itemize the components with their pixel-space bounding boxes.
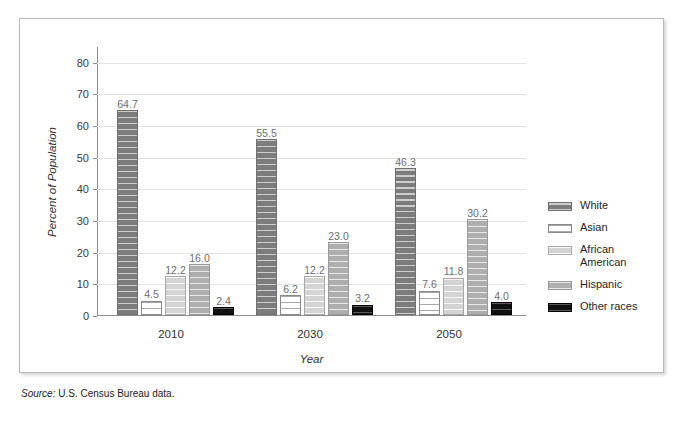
y-tick-label: 60 xyxy=(77,121,89,132)
bar[interactable]: 2.4 xyxy=(213,307,234,315)
legend-item[interactable]: African American xyxy=(548,243,656,269)
bar[interactable]: 6.2 xyxy=(280,295,301,315)
y-tick-mark xyxy=(93,316,97,317)
y-tick-mark xyxy=(93,158,97,159)
y-tick-mark xyxy=(93,189,97,190)
bar[interactable]: 23.0 xyxy=(328,242,349,315)
bar[interactable]: 11.8 xyxy=(443,278,464,315)
legend-label: Asian xyxy=(580,221,608,234)
y-axis-title-label: Percent of Population xyxy=(46,127,58,237)
bar-value-label: 23.0 xyxy=(328,231,348,242)
x-axis-title: Year xyxy=(97,353,526,365)
bar-value-label: 6.2 xyxy=(283,284,298,295)
source-text: U.S. Census Bureau data. xyxy=(55,388,174,399)
bar[interactable]: 12.2 xyxy=(165,276,186,315)
bar[interactable]: 3.2 xyxy=(352,305,373,315)
y-tick-mark xyxy=(93,253,97,254)
plot-area: 01020304050607080 64.74.512.216.02.42010… xyxy=(97,47,526,316)
source-note: Source: U.S. Census Bureau data. xyxy=(21,388,174,399)
legend-swatch-icon xyxy=(548,224,572,233)
source-prefix: Source: xyxy=(21,388,55,399)
bar-value-label: 16.0 xyxy=(189,253,209,264)
legend-item[interactable]: Hispanic xyxy=(548,278,656,291)
bar-value-label: 55.5 xyxy=(256,128,276,139)
bar[interactable]: 7.6 xyxy=(419,291,440,315)
y-tick-mark xyxy=(93,284,97,285)
figure-frame: Percent of Population 01020304050607080 … xyxy=(19,18,664,373)
legend-label: White xyxy=(580,199,608,212)
x-tick-label: 2030 xyxy=(297,328,323,340)
bar-value-label: 3.2 xyxy=(355,293,370,304)
y-tick-mark xyxy=(93,63,97,64)
y-tick-label: 10 xyxy=(77,279,89,290)
legend-item[interactable]: Other races xyxy=(548,300,656,313)
x-axis-line xyxy=(97,315,526,316)
bar-value-label: 64.7 xyxy=(117,99,137,110)
bar[interactable]: 64.7 xyxy=(117,110,138,315)
bar-value-label: 12.2 xyxy=(304,265,324,276)
y-axis-title: Percent of Population xyxy=(44,47,60,316)
legend-swatch-icon xyxy=(548,303,572,312)
bar[interactable]: 4.0 xyxy=(491,302,512,315)
y-tick-label: 20 xyxy=(77,247,89,258)
bar-value-label: 46.3 xyxy=(395,157,415,168)
y-tick-label: 70 xyxy=(77,89,89,100)
y-tick-label: 50 xyxy=(77,152,89,163)
bar-group: 64.74.512.216.02.42010 xyxy=(117,46,237,315)
bar-group: 46.37.611.830.24.02050 xyxy=(395,46,515,315)
bar[interactable]: 12.2 xyxy=(304,276,325,315)
bar-value-label: 30.2 xyxy=(467,208,487,219)
bar[interactable]: 30.2 xyxy=(467,219,488,315)
x-tick-label: 2050 xyxy=(436,328,462,340)
y-tick-label: 80 xyxy=(77,57,89,68)
legend-swatch-icon xyxy=(548,246,572,255)
legend-swatch-icon xyxy=(548,281,572,290)
bar-value-label: 2.4 xyxy=(216,296,231,307)
y-tick-label: 40 xyxy=(77,184,89,195)
bar-group: 55.56.212.223.03.22030 xyxy=(256,46,376,315)
bar-value-label: 4.5 xyxy=(144,289,159,300)
y-tick-mark xyxy=(93,126,97,127)
y-tick-label: 0 xyxy=(83,311,89,322)
legend-item[interactable]: White xyxy=(548,199,656,212)
y-tick-mark xyxy=(93,221,97,222)
y-tick-label: 30 xyxy=(77,216,89,227)
bar-value-label: 11.8 xyxy=(444,266,464,277)
bar[interactable]: 46.3 xyxy=(395,168,416,315)
x-tick-label: 2010 xyxy=(158,328,184,340)
y-tick-mark xyxy=(93,94,97,95)
bar-value-label: 12.2 xyxy=(165,265,185,276)
bar[interactable]: 55.5 xyxy=(256,139,277,315)
legend-label: Other races xyxy=(580,300,637,313)
bar[interactable]: 16.0 xyxy=(189,264,210,315)
chart-legend: WhiteAsianAfrican AmericanHispanicOther … xyxy=(548,199,656,322)
y-axis-line xyxy=(97,47,98,316)
bar[interactable]: 4.5 xyxy=(141,301,162,315)
bar-value-label: 7.6 xyxy=(422,279,437,290)
legend-swatch-icon xyxy=(548,202,572,211)
legend-label: African American xyxy=(580,243,626,269)
legend-label: Hispanic xyxy=(580,278,622,291)
legend-item[interactable]: Asian xyxy=(548,221,656,234)
bar-value-label: 4.0 xyxy=(494,291,509,302)
